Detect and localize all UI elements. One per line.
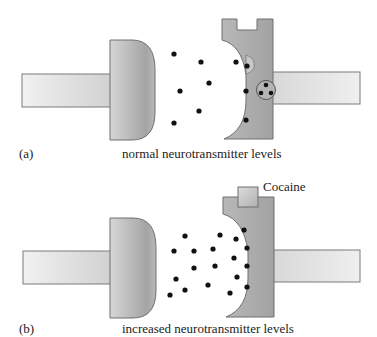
- presynaptic-neuron: [23, 218, 156, 318]
- neurotransmitters-b: [167, 227, 249, 297]
- panel-a-letter: (a): [19, 146, 33, 162]
- neurotransmitter-dot: [241, 227, 246, 232]
- panel-b: [23, 187, 360, 318]
- neurotransmitter-dot: [227, 290, 232, 295]
- panel-b-letter: (b): [19, 321, 34, 337]
- neurotransmitter-dot: [244, 263, 249, 268]
- neurotransmitter-dot: [244, 284, 249, 289]
- neurotransmitters-a: [171, 51, 249, 125]
- synapse-diagram: [0, 0, 377, 337]
- panel-b-caption: increased neurotransmitter levels: [122, 321, 294, 337]
- neurotransmitter-dot: [233, 236, 238, 241]
- panel-a: [22, 19, 360, 140]
- postsynaptic-neuron: [222, 19, 360, 139]
- neurotransmitter-dot: [177, 88, 182, 93]
- neurotransmitter-dot: [171, 120, 176, 125]
- neurotransmitter-dot: [167, 292, 172, 297]
- neurotransmitter-dot: [210, 246, 215, 251]
- neurotransmitter-dot: [243, 117, 248, 122]
- cocaine-blocker: [238, 187, 258, 207]
- neurotransmitter-dot: [244, 63, 249, 68]
- neurotransmitter-dot: [212, 263, 217, 268]
- neurotransmitter-dot: [244, 245, 249, 250]
- neurotransmitter-dot: [205, 282, 210, 287]
- neurotransmitter-dot: [173, 276, 178, 281]
- neurotransmitter-dot: [191, 265, 196, 270]
- neurotransmitter-dot: [171, 51, 176, 56]
- neurotransmitter-dot: [206, 80, 211, 85]
- neurotransmitter-dot: [196, 108, 201, 113]
- neurotransmitter-dot: [231, 255, 236, 260]
- cocaine-label: Cocaine: [263, 179, 306, 195]
- neurotransmitter-dot: [182, 287, 187, 292]
- neurotransmitter-dot: [191, 248, 196, 253]
- neurotransmitter-dot: [198, 59, 203, 64]
- panel-a-caption: normal neurotransmitter levels: [122, 146, 282, 162]
- postsynaptic-neuron: [223, 197, 360, 317]
- neurotransmitter-dot: [233, 59, 238, 64]
- presynaptic-neuron: [22, 40, 155, 140]
- neurotransmitter-dot: [182, 233, 187, 238]
- neurotransmitter-dot: [234, 274, 239, 279]
- neurotransmitter-dot: [217, 232, 222, 237]
- neurotransmitter-dot: [243, 88, 248, 93]
- neurotransmitter-dot: [171, 248, 176, 253]
